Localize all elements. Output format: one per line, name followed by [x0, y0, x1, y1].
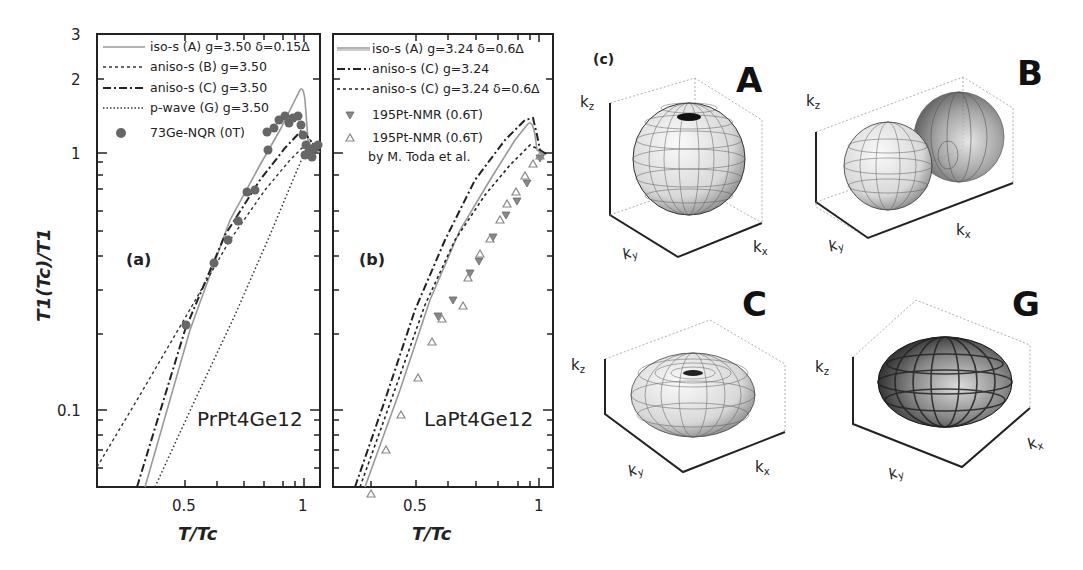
axis-kx-b: kx: [956, 221, 971, 240]
gap-letter-g: G: [1012, 284, 1040, 324]
axis-kx-c: kx: [755, 458, 770, 477]
legend-b-item-2: aniso-s (C) g=3.24 δ=0.6Δ: [372, 81, 540, 96]
x-axis-label-b: T/Tc: [412, 523, 452, 544]
gap-letter-a: A: [736, 60, 763, 100]
axis-kz-b: kz: [806, 92, 820, 111]
svg-text:1: 1: [298, 497, 308, 515]
y-tick-labels: 3 2 1 0.1: [57, 26, 81, 420]
panel-a: iso-s (A) g=3.50 δ=0.15Δ aniso-s (B) g=3…: [97, 34, 323, 544]
gap-letter-c: C: [742, 284, 767, 324]
svg-text:1: 1: [534, 497, 544, 515]
curve-aniso-s-c-b: [355, 118, 548, 487]
x-tick-labels-a: 0.5 1: [172, 497, 308, 515]
curve-aniso-s-c-delta-b: [360, 145, 548, 487]
panel-label-a: (a): [126, 250, 151, 269]
x-axis-label-a: T/Tc: [178, 523, 218, 544]
legend-b-item-4: 195Pt-NMR (0.6T): [372, 130, 483, 145]
legend-a-item-3: p-wave (G) g=3.50: [150, 100, 269, 115]
svg-text:3: 3: [71, 26, 81, 44]
axis-ky-c: ky: [625, 458, 646, 481]
x-tick-labels-b: 0.5 1: [403, 497, 544, 515]
legend-b: iso-s (A) g=3.24 δ=0.6Δ aniso-s (C) g=3.…: [337, 41, 540, 164]
svg-text:0.5: 0.5: [172, 497, 196, 515]
legend-b-item-1: aniso-s (C) g=3.24: [372, 61, 489, 76]
svg-text:0.5: 0.5: [403, 497, 427, 515]
legend-a-item-1: aniso-s (B) g=3.50: [150, 59, 267, 74]
legend-a-item-2: aniso-s (C) g=3.50: [150, 80, 267, 95]
axis-kz-a: kz: [580, 93, 594, 112]
panel-label-c: (c): [593, 51, 614, 67]
axis-ky-a: ky: [620, 241, 641, 264]
curve-aniso-s-c-a: [137, 130, 320, 487]
curve-p-wave-a: [155, 140, 320, 487]
gap-diagram-b: B kz ky kx: [806, 53, 1043, 256]
axis-kx-a: kx: [753, 238, 768, 257]
panel-b: iso-s (A) g=3.24 δ=0.6Δ aniso-s (C) g=3.…: [333, 34, 553, 544]
legend-b-item-5: by M. Toda et al.: [368, 149, 470, 164]
gap-diagram-c: C kz ky kx: [571, 284, 785, 481]
svg-text:0.1: 0.1: [57, 402, 81, 420]
axis-kz-c: kz: [571, 356, 585, 375]
svg-text:1: 1: [71, 145, 81, 163]
legend-a: iso-s (A) g=3.50 δ=0.15Δ aniso-s (B) g=3…: [103, 39, 310, 140]
compound-label-a: PrPt4Ge12: [197, 407, 303, 431]
panel-label-b: (b): [359, 250, 385, 269]
gap-diagram-a: A kz ky kx: [580, 60, 768, 264]
axis-kx-g: kx: [1026, 432, 1045, 454]
legend-b-item-0: iso-s (A) g=3.24 δ=0.6Δ: [372, 41, 524, 56]
axis-ky-g: ky: [886, 461, 907, 484]
curve-iso-s-b: [365, 123, 545, 487]
legend-a-item-4: 73Ge-NQR (0T): [150, 125, 245, 140]
legend-a-item-0: iso-s (A) g=3.50 δ=0.15Δ: [150, 39, 310, 54]
figure-canvas: iso-s (A) g=3.50 δ=0.15Δ aniso-s (B) g=3…: [0, 0, 1083, 570]
y-axis-label: T1(Tc)/T1: [33, 228, 54, 321]
svg-text:2: 2: [71, 71, 81, 89]
gap-letter-b: B: [1017, 53, 1043, 93]
legend-b-item-3: 195Pt-NMR (0.6T): [372, 107, 483, 122]
axis-kz-g: kz: [815, 358, 829, 377]
axis-ky-b: ky: [826, 233, 847, 256]
compound-label-b: LaPt4Ge12: [424, 407, 533, 431]
gap-diagram-g: G kz ky kx: [815, 284, 1045, 484]
